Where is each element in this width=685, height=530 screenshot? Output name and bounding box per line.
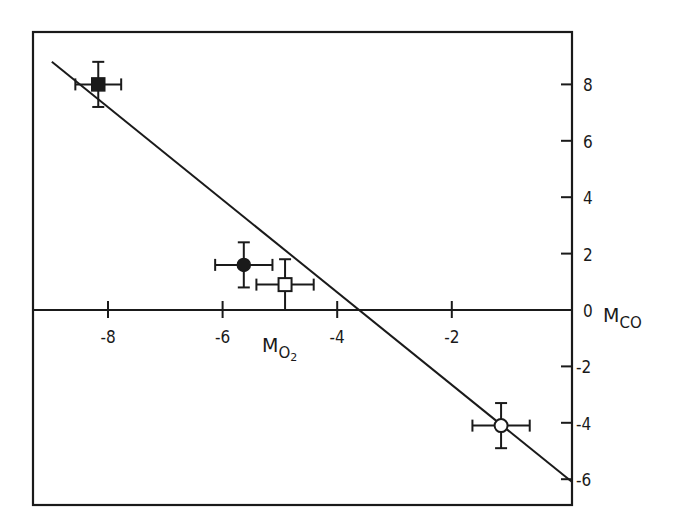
y-tick-label: 6 xyxy=(583,132,593,152)
x-tick-label: -8 xyxy=(100,327,115,347)
y-tick-label: -6 xyxy=(576,470,591,490)
y-tick-label: -2 xyxy=(576,357,591,377)
y-tick-label: -4 xyxy=(576,414,591,434)
data-point-circle-filled xyxy=(215,242,272,287)
x-axis-ticks: -8-6-4-2 xyxy=(100,301,459,347)
y-tick-label: 8 xyxy=(583,75,593,95)
y-tick-label: 0 xyxy=(583,301,593,321)
data-points xyxy=(75,62,529,448)
y-axis-ticks: 86420-2-4-6 xyxy=(561,75,593,490)
circle-open-marker xyxy=(495,419,508,432)
square-open-marker xyxy=(279,278,292,291)
scatter-chart: -8-6-4-2 86420-2-4-6 MO2 MCO xyxy=(0,0,685,530)
data-point-square-filled xyxy=(75,62,121,107)
y-axis-label: MCO xyxy=(603,304,642,332)
circle-filled-marker xyxy=(237,258,250,271)
y-tick-label: 2 xyxy=(583,245,593,265)
plot-frame xyxy=(33,32,572,505)
x-tick-label: -6 xyxy=(215,327,230,347)
square-filled-marker xyxy=(92,78,105,91)
y-tick-label: 4 xyxy=(583,188,593,208)
x-tick-label: -2 xyxy=(444,327,459,347)
x-axis-label: MO2 xyxy=(262,334,297,364)
x-tick-label: -4 xyxy=(330,327,345,347)
fit-line xyxy=(52,62,572,482)
